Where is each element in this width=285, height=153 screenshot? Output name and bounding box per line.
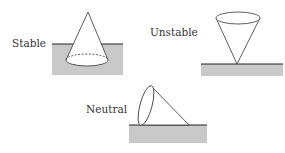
stable-figure (52, 12, 123, 75)
unstable-cone (216, 18, 260, 64)
label-neutral: Neutral (86, 103, 127, 115)
equilibrium-diagram (0, 0, 285, 153)
unstable-figure (201, 12, 283, 76)
label-stable: Stable (12, 37, 46, 49)
stable-cone (66, 12, 108, 66)
neutral-figure (129, 84, 207, 143)
ground-block (201, 64, 283, 76)
label-unstable: Unstable (150, 26, 198, 38)
ground-block (129, 125, 207, 143)
cone-base (216, 12, 260, 24)
